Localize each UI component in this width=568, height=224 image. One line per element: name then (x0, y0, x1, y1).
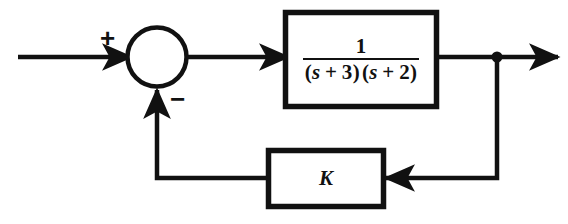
summing-junction-plus-sign: + (100, 25, 115, 51)
denominator-constant-2: 2 (399, 60, 410, 84)
denominator-operator-2: + (382, 60, 394, 84)
denominator-variable-2: s (369, 60, 377, 84)
denominator-operator-1: + (325, 60, 337, 84)
block-diagram: + − 1 (s + 3) (s + 2) K (0, 0, 568, 224)
fraction-numerator: 1 (350, 36, 373, 58)
summing-junction-minus-sign: − (170, 86, 185, 112)
summing-junction-circle (128, 28, 187, 87)
transfer-function-fraction: 1 (s + 3) (s + 2) (303, 36, 419, 84)
plant-transfer-function-expression: 1 (s + 3) (s + 2) (286, 13, 436, 106)
denominator-constant-1: 3 (342, 60, 353, 84)
fraction-denominator: (s + 3) (s + 2) (303, 60, 419, 83)
denominator-paren-open-1: ( (305, 60, 312, 84)
denominator-paren-close-1: ) (353, 60, 360, 84)
gain-block-label: K (269, 151, 383, 206)
denominator-variable-1: s (312, 60, 320, 84)
denominator-paren-close-2: ) (410, 60, 417, 84)
